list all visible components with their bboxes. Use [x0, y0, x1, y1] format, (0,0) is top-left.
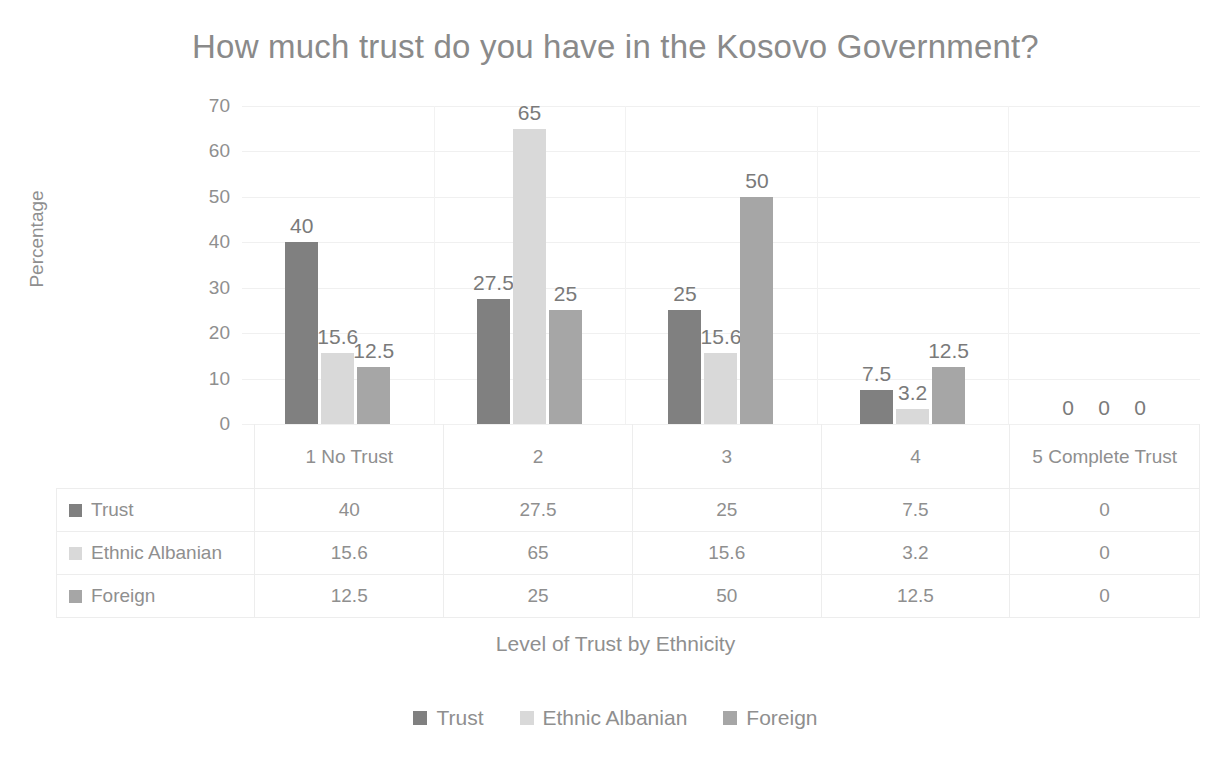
y-axis-tick-label: 50: [184, 186, 230, 208]
table-cell: 50: [632, 575, 821, 618]
table-corner-cell: [57, 424, 255, 489]
bar-value-label: 0: [1098, 396, 1110, 420]
table-cell: 27.5: [444, 489, 633, 532]
bar-value-label: 50: [745, 169, 768, 193]
bar-slot: 12.5: [357, 106, 390, 424]
bar-slot: 15.6: [704, 106, 737, 424]
chart-legend: TrustEthnic AlbanianForeign: [0, 706, 1231, 730]
bar-value-label: 40: [290, 214, 313, 238]
series-color-swatch-icon: [69, 547, 82, 560]
bar-set: 2515.650: [625, 106, 817, 424]
bar-value-label: 12.5: [928, 339, 969, 363]
bar[interactable]: [357, 367, 390, 424]
bar-value-label: 25: [673, 282, 696, 306]
table-cell: 25: [444, 575, 633, 618]
table-category-header: 4: [821, 424, 1010, 489]
bar[interactable]: [321, 353, 354, 424]
table-cell: 15.6: [255, 532, 444, 575]
y-axis-title: Percentage: [26, 169, 48, 309]
y-axis-tick-label: 20: [184, 322, 230, 344]
table-row: Foreign12.5255012.50: [57, 575, 1200, 618]
category-header-row: 1 No Trust2345 Complete Trust: [57, 424, 1200, 489]
table-cell: 12.5: [255, 575, 444, 618]
legend-label: Trust: [436, 706, 483, 730]
bar-value-label: 0: [1062, 396, 1074, 420]
y-axis-tick-label: 70: [184, 95, 230, 117]
series-name-label: Foreign: [91, 585, 155, 606]
legend-item[interactable]: Foreign: [723, 706, 817, 730]
table-cell: 7.5: [821, 489, 1010, 532]
bar[interactable]: [549, 310, 582, 424]
series-color-swatch-icon: [69, 504, 82, 517]
bar-value-label: 3.2: [898, 381, 927, 405]
bar-slot: 3.2: [896, 106, 929, 424]
table-series-name: Trust: [57, 489, 255, 532]
bar-slot: 0: [1088, 106, 1121, 424]
bar-slot: 65: [513, 106, 546, 424]
legend-color-swatch-icon: [520, 711, 534, 725]
bar-slot: 25: [549, 106, 582, 424]
legend-item[interactable]: Trust: [413, 706, 483, 730]
chart-title: How much trust do you have in the Kosovo…: [0, 28, 1231, 66]
bar-slot: 12.5: [932, 106, 965, 424]
bar-slot: 7.5: [860, 106, 893, 424]
bar-value-label: 15.6: [701, 325, 742, 349]
bar[interactable]: [704, 353, 737, 424]
table-row: Trust4027.5257.50: [57, 489, 1200, 532]
bar-value-label: 7.5: [862, 362, 891, 386]
table-cell: 65: [444, 532, 633, 575]
table-cell: 0: [1010, 575, 1200, 618]
chart-data-table: 1 No Trust2345 Complete Trust Trust4027.…: [56, 424, 1200, 618]
table-category-header: 1 No Trust: [255, 424, 444, 489]
legend-item[interactable]: Ethnic Albanian: [520, 706, 688, 730]
series-name-label: Trust: [91, 499, 134, 520]
legend-label: Ethnic Albanian: [543, 706, 688, 730]
bar[interactable]: [668, 310, 701, 424]
bar-slot: 27.5: [477, 106, 510, 424]
bar-slot: 15.6: [321, 106, 354, 424]
table-cell: 12.5: [821, 575, 1010, 618]
table-row: Ethnic Albanian15.66515.63.20: [57, 532, 1200, 575]
table-series-name: Foreign: [57, 575, 255, 618]
series-name-label: Ethnic Albanian: [91, 542, 222, 563]
bar-set: 000: [1008, 106, 1200, 424]
y-axis-tick-label: 10: [184, 368, 230, 390]
bar-value-label: 12.5: [353, 339, 394, 363]
bar-set: 4015.612.5: [242, 106, 434, 424]
table-category-header: 2: [444, 424, 633, 489]
bar[interactable]: [477, 299, 510, 424]
table-cell: 25: [632, 489, 821, 532]
bar-slot: 40: [285, 106, 318, 424]
bar-slot: 0: [1124, 106, 1157, 424]
bar-slot: 0: [1052, 106, 1085, 424]
bar[interactable]: [860, 390, 893, 424]
bar-value-label: 0: [1134, 396, 1146, 420]
data-table-body: Trust4027.5257.50Ethnic Albanian15.66515…: [57, 489, 1200, 618]
table-cell: 0: [1010, 532, 1200, 575]
bar[interactable]: [285, 242, 318, 424]
bar[interactable]: [896, 409, 929, 424]
bar-group: 27.56525: [434, 106, 626, 424]
bar-set: 7.53.212.5: [817, 106, 1009, 424]
bar-value-label: 27.5: [473, 271, 514, 295]
plot-area: 706050403020100 4015.612.527.565252515.6…: [242, 106, 1200, 424]
bar[interactable]: [932, 367, 965, 424]
table-cell: 40: [255, 489, 444, 532]
bar[interactable]: [740, 197, 773, 424]
data-table-head: 1 No Trust2345 Complete Trust: [57, 424, 1200, 489]
bar-value-label: 15.6: [317, 325, 358, 349]
bar-group: 2515.650: [625, 106, 817, 424]
table-cell: 15.6: [632, 532, 821, 575]
legend-color-swatch-icon: [413, 711, 427, 725]
x-axis-title: Level of Trust by Ethnicity: [0, 632, 1231, 656]
bar-value-label: 25: [554, 282, 577, 306]
legend-label: Foreign: [746, 706, 817, 730]
bar[interactable]: [513, 129, 546, 424]
y-axis-tick-label: 60: [184, 140, 230, 162]
table-cell: 0: [1010, 489, 1200, 532]
bar-group: 4015.612.5: [242, 106, 434, 424]
bar-slot: 50: [740, 106, 773, 424]
bar-group: 7.53.212.5: [817, 106, 1009, 424]
y-axis-tick-label: 40: [184, 231, 230, 253]
bar-value-label: 65: [518, 101, 541, 125]
